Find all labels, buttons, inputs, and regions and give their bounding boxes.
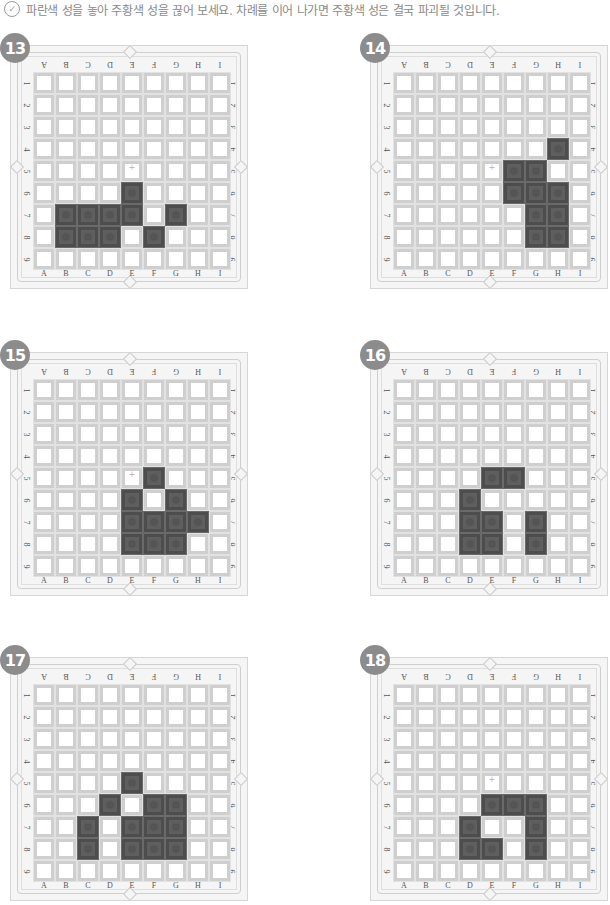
empty-cell-C1[interactable] [438,380,458,400]
empty-cell-G4[interactable] [166,446,186,466]
stone-cell-D6[interactable] [100,795,120,815]
empty-cell-I9[interactable] [570,556,590,576]
stone-cell-C8[interactable] [78,839,98,859]
empty-cell-E6[interactable] [122,795,142,815]
empty-cell-H9[interactable] [548,861,568,881]
empty-cell-D4[interactable] [460,139,480,159]
empty-cell-E7[interactable] [482,205,502,225]
stone-cell-G6[interactable] [526,795,546,815]
empty-cell-D3[interactable] [100,117,120,137]
empty-cell-G9[interactable] [166,861,186,881]
empty-cell-D4[interactable] [100,139,120,159]
empty-cell-E7[interactable] [482,817,502,837]
stone-cell-G6[interactable] [166,490,186,510]
empty-cell-B5[interactable] [416,468,436,488]
empty-cell-H6[interactable] [548,795,568,815]
empty-cell-A8[interactable] [394,534,414,554]
empty-cell-B6[interactable] [56,490,76,510]
empty-cell-E3[interactable] [482,424,502,444]
stone-cell-D8[interactable] [100,227,120,247]
empty-cell-F3[interactable] [144,424,164,444]
empty-cell-C8[interactable] [438,534,458,554]
empty-cell-G1[interactable] [166,73,186,93]
empty-cell-B7[interactable] [416,817,436,837]
empty-cell-E3[interactable] [482,117,502,137]
empty-cell-C4[interactable] [438,139,458,159]
empty-cell-B2[interactable] [56,707,76,727]
empty-cell-D3[interactable] [100,729,120,749]
empty-cell-D8[interactable] [100,839,120,859]
empty-cell-B6[interactable] [416,490,436,510]
empty-cell-F9[interactable] [504,861,524,881]
empty-cell-E9[interactable] [482,249,502,269]
empty-cell-A4[interactable] [394,751,414,771]
empty-cell-C9[interactable] [78,861,98,881]
empty-cell-C2[interactable] [438,707,458,727]
stone-cell-G7[interactable] [166,512,186,532]
empty-cell-B1[interactable] [416,73,436,93]
empty-cell-D7[interactable] [100,817,120,837]
empty-cell-E6[interactable] [482,183,502,203]
empty-cell-I4[interactable] [570,139,590,159]
empty-cell-B4[interactable] [416,139,436,159]
empty-cell-A7[interactable] [34,512,54,532]
empty-cell-E8[interactable] [482,227,502,247]
empty-cell-H5[interactable] [188,161,208,181]
empty-cell-B8[interactable] [416,534,436,554]
empty-cell-A6[interactable] [394,795,414,815]
empty-cell-F9[interactable] [144,861,164,881]
stone-cell-G6[interactable] [166,795,186,815]
empty-cell-A4[interactable] [34,139,54,159]
empty-cell-F5[interactable] [144,161,164,181]
empty-cell-D9[interactable] [460,861,480,881]
empty-cell-H6[interactable] [188,490,208,510]
empty-cell-H3[interactable] [548,117,568,137]
empty-cell-G3[interactable] [166,117,186,137]
empty-cell-I4[interactable] [570,751,590,771]
empty-cell-E2[interactable] [482,402,502,422]
stone-cell-D7[interactable] [460,512,480,532]
empty-cell-A2[interactable] [394,95,414,115]
stone-cell-G6[interactable] [526,183,546,203]
empty-cell-A6[interactable] [34,490,54,510]
empty-cell-F8[interactable] [504,534,524,554]
empty-cell-E4[interactable] [122,446,142,466]
empty-cell-I6[interactable] [570,183,590,203]
empty-cell-D5[interactable] [100,161,120,181]
stone-cell-D7[interactable] [100,205,120,225]
empty-cell-E5[interactable] [122,468,142,488]
empty-cell-F6[interactable] [144,183,164,203]
empty-cell-B1[interactable] [416,380,436,400]
empty-cell-E5[interactable] [122,161,142,181]
empty-cell-G2[interactable] [166,707,186,727]
empty-cell-A2[interactable] [34,707,54,727]
empty-cell-C6[interactable] [438,795,458,815]
empty-cell-B4[interactable] [416,751,436,771]
stone-cell-E6[interactable] [122,490,142,510]
empty-cell-H8[interactable] [188,534,208,554]
empty-cell-C7[interactable] [78,512,98,532]
empty-cell-C1[interactable] [78,685,98,705]
empty-cell-I3[interactable] [210,424,230,444]
empty-cell-C3[interactable] [78,117,98,137]
empty-cell-H1[interactable] [548,685,568,705]
empty-cell-E4[interactable] [122,751,142,771]
empty-cell-I5[interactable] [210,468,230,488]
empty-cell-C6[interactable] [438,183,458,203]
empty-cell-H7[interactable] [548,512,568,532]
empty-cell-D7[interactable] [100,512,120,532]
empty-cell-E9[interactable] [122,861,142,881]
empty-cell-F1[interactable] [504,685,524,705]
empty-cell-C5[interactable] [438,468,458,488]
stone-cell-E8[interactable] [122,839,142,859]
empty-cell-G9[interactable] [166,249,186,269]
empty-cell-B7[interactable] [56,512,76,532]
empty-cell-B4[interactable] [56,751,76,771]
empty-cell-A1[interactable] [34,73,54,93]
empty-cell-G9[interactable] [166,556,186,576]
empty-cell-F3[interactable] [144,117,164,137]
empty-cell-E1[interactable] [122,73,142,93]
empty-cell-A1[interactable] [394,73,414,93]
empty-cell-D3[interactable] [460,424,480,444]
empty-cell-E9[interactable] [482,556,502,576]
